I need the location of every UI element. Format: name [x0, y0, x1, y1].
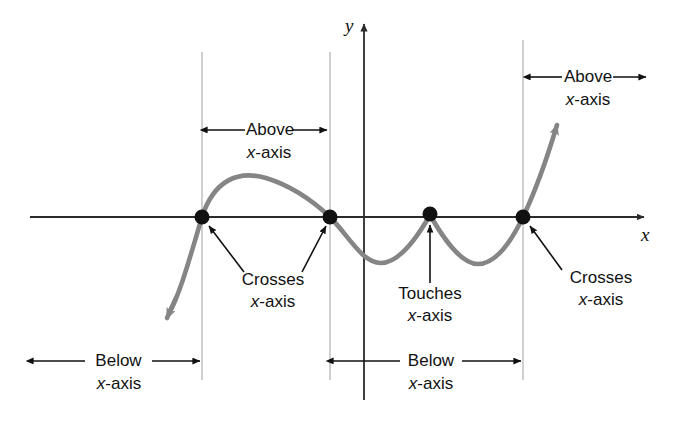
above-middle-label: Above — [246, 120, 292, 140]
crosses-right-axis-label: x-axis — [564, 290, 638, 310]
crosses-right-axis-word: -axis — [587, 290, 623, 309]
leader-crosses-root-4 — [530, 226, 562, 270]
crosses-right-word: Crosses — [570, 268, 632, 287]
x-axis-label: x — [641, 225, 649, 244]
polynomial-axis-diagram: y x Above x-axis Above x-axis Below x-ax… — [0, 0, 675, 423]
y-axis-label: y — [345, 16, 353, 35]
root-dot-4-crosses — [516, 210, 531, 225]
root-dot-3-touches — [423, 207, 438, 222]
crosses-right-label: Crosses — [562, 268, 640, 288]
below-middle-word: Below — [408, 351, 454, 370]
above-middle-axis-label: x-axis — [232, 143, 306, 163]
below-left-axis-word: -axis — [105, 374, 141, 393]
below-left-word: Below — [95, 351, 141, 370]
below-middle-axis-label: x-axis — [394, 374, 468, 394]
root-dot-2-crosses — [323, 210, 338, 225]
touches-axis-word: -axis — [416, 306, 452, 325]
below-middle-label: Below — [400, 351, 462, 371]
below-left-axis-label: x-axis — [82, 374, 156, 394]
above-right-word: Above — [564, 67, 612, 86]
leader-crosses-root-1 — [209, 226, 244, 272]
curve-left-arrow-tail — [167, 298, 176, 318]
above-middle-word: Above — [246, 120, 294, 139]
touches-axis-label: x-axis — [393, 306, 467, 326]
leader-crosses-root-2 — [302, 226, 326, 272]
annotation-arrows — [33, 77, 646, 361]
crosses-left-axis-label: x-axis — [236, 292, 310, 312]
touches-label: Touches — [391, 284, 469, 304]
crosses-left-word: Crosses — [242, 270, 304, 289]
crosses-left-label: Crosses — [236, 270, 310, 290]
below-left-label: Below — [87, 351, 150, 371]
above-right-axis-label: x-axis — [551, 90, 625, 110]
crosses-left-axis-word: -axis — [259, 292, 295, 311]
below-middle-axis-word: -axis — [417, 374, 453, 393]
touches-word: Touches — [398, 284, 461, 303]
polynomial-curve — [169, 125, 557, 313]
guide-lines — [202, 40, 523, 380]
root-dot-1-crosses — [195, 210, 210, 225]
above-middle-axis-word: -axis — [255, 143, 291, 162]
above-right-axis-word: -axis — [574, 90, 610, 109]
above-right-label: Above — [564, 67, 612, 87]
